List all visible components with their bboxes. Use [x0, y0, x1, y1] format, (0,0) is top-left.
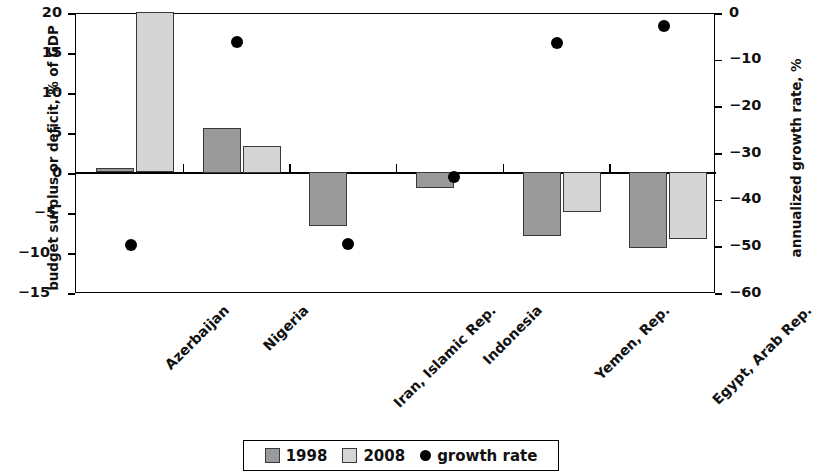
- category-label-nigeria: Nigeria: [260, 302, 312, 354]
- right-tick-neg40: −40: [729, 190, 777, 206]
- left-tick-5: 5: [16, 124, 62, 140]
- legend-swatch-1998-icon: [265, 448, 280, 463]
- bar-1998-egypt: [629, 172, 667, 248]
- bar-2008-yemen: [563, 172, 601, 212]
- plot-area: [75, 13, 715, 293]
- right-tick-neg50: −50: [729, 237, 777, 253]
- left-tickmark-0: [68, 173, 75, 175]
- left-tick-neg5: −5: [10, 204, 56, 220]
- right-tick-0: 0: [729, 4, 777, 20]
- left-tickmark-neg15: [68, 293, 75, 295]
- chart-legend: 1998 2008 growth rate: [243, 440, 559, 471]
- category-label-azerbaijan: Azerbaijan: [162, 302, 233, 373]
- right-tick-neg60: −60: [729, 284, 777, 300]
- legend-dot-growth-rate-icon: [420, 450, 431, 461]
- legend-label-1998: 1998: [286, 447, 328, 465]
- left-tickmark-neg5: [68, 213, 75, 215]
- right-tickmark-neg30: [715, 153, 722, 155]
- bar-2008-azerbaijan: [136, 12, 174, 172]
- left-tick-20: 20: [16, 4, 62, 20]
- legend-label-growth-rate: growth rate: [437, 447, 537, 465]
- category-separator-2: [289, 164, 290, 172]
- left-tickmark-5: [68, 133, 75, 135]
- category-label-egypt: Egypt, Arab Rep.: [709, 302, 815, 408]
- left-tick-neg10: −10: [4, 244, 50, 260]
- growth-dot-indonesia: [448, 171, 460, 183]
- category-separator-1: [183, 164, 184, 172]
- bar-1998-nigeria: [203, 128, 241, 174]
- legend-item-growth-rate: growth rate: [420, 447, 537, 465]
- category-label-yemen: Yemen, Rep.: [592, 302, 673, 383]
- growth-dot-iran: [342, 238, 354, 250]
- category-separator-5: [609, 164, 610, 172]
- bar-2008-nigeria: [243, 146, 281, 174]
- right-tickmark-neg20: [715, 106, 722, 108]
- category-separator-4: [503, 164, 504, 172]
- right-tick-neg20: −20: [729, 97, 777, 113]
- left-tickmark-20: [68, 13, 75, 15]
- right-tickmark-neg50: [715, 246, 722, 248]
- right-tick-neg10: −10: [729, 50, 777, 66]
- zero-baseline: [76, 172, 716, 174]
- left-tick-neg15: −15: [4, 284, 50, 300]
- bar-2008-egypt: [669, 172, 707, 238]
- growth-dot-nigeria: [231, 36, 243, 48]
- bar-1998-azerbaijan: [96, 168, 134, 172]
- left-tickmark-10: [68, 93, 75, 95]
- left-tickmark-neg10: [68, 253, 75, 255]
- legend-item-2008: 2008: [342, 447, 405, 465]
- right-tickmark-neg10: [715, 60, 722, 62]
- left-tick-15: 15: [16, 44, 62, 60]
- right-tick-neg30: −30: [729, 144, 777, 160]
- category-separator-3: [396, 164, 397, 172]
- legend-item-1998: 1998: [265, 447, 328, 465]
- right-tickmark-neg60: [715, 293, 722, 295]
- growth-dot-azerbaijan: [125, 239, 137, 251]
- legend-swatch-2008-icon: [342, 448, 357, 463]
- left-tick-10: 10: [16, 84, 62, 100]
- growth-dot-egypt: [658, 20, 670, 32]
- bar-1998-iran: [309, 172, 347, 226]
- bar-1998-yemen: [523, 172, 561, 236]
- right-tickmark-neg40: [715, 200, 722, 202]
- right-axis-title: annualized growth rate, %: [788, 13, 804, 303]
- left-tickmark-15: [68, 53, 75, 55]
- right-tickmark-0: [715, 13, 722, 15]
- growth-dot-yemen: [551, 37, 563, 49]
- legend-label-2008: 2008: [363, 447, 405, 465]
- left-tick-0: 0: [16, 164, 62, 180]
